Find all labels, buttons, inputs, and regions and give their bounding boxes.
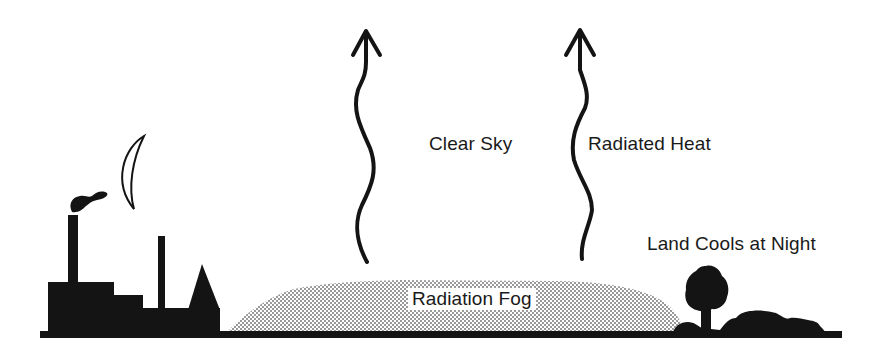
- smoke-icon: [70, 192, 107, 213]
- radiated-heat-label: Radiated Heat: [588, 133, 711, 155]
- radiation-fog-diagram: Clear Sky Radiated Heat Land Cools at Ni…: [0, 0, 890, 362]
- factory-icon: [48, 215, 220, 336]
- bushes-icon: [672, 311, 829, 336]
- radiation-fog-label: Radiation Fog: [408, 288, 536, 310]
- moon-icon: [122, 136, 144, 209]
- clear-sky-label: Clear Sky: [429, 133, 512, 155]
- land-cools-label: Land Cools at Night: [647, 233, 816, 255]
- heat-arrow-icon: [353, 31, 380, 262]
